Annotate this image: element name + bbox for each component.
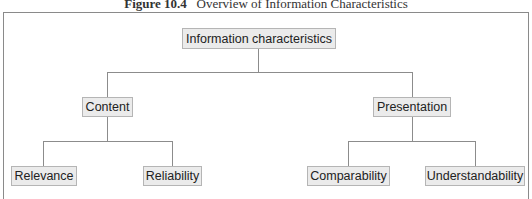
connector: [172, 141, 173, 166]
figure-title: Overview of Information Characteristics: [197, 0, 408, 11]
node-reliability: Reliability: [143, 166, 202, 186]
node-comparability: Comparability: [307, 166, 390, 186]
connector: [475, 141, 476, 166]
node-understandability: Understandability: [425, 166, 525, 186]
connector: [348, 141, 349, 166]
figure-number: Figure 10.4: [124, 0, 187, 11]
node-relevance: Relevance: [11, 166, 77, 186]
connector: [43, 141, 44, 166]
figure-caption: Figure 10.4 Overview of Information Char…: [0, 0, 532, 12]
node-root: Information characteristics: [182, 28, 336, 49]
connector: [107, 72, 413, 73]
connector: [412, 72, 413, 97]
connector: [107, 72, 108, 97]
node-presentation: Presentation: [373, 97, 451, 117]
connector: [43, 141, 173, 142]
connector: [412, 116, 413, 141]
connector: [107, 116, 108, 141]
node-content: Content: [82, 97, 133, 117]
connector: [258, 49, 259, 73]
connector: [348, 141, 476, 142]
